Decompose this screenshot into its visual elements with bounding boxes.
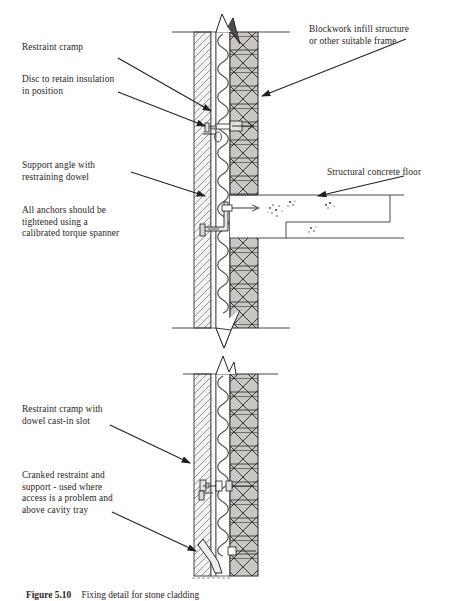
label-restraint-cramp-dowel-slot: Restraint cramp with dowel cast-in slot xyxy=(22,404,103,427)
diagram-top-section xyxy=(118,14,406,348)
label-cranked-restraint-support: Cranked restraint and support - used whe… xyxy=(22,470,113,516)
insulation-layer xyxy=(216,32,230,328)
leader-lines-bottom xyxy=(110,425,196,551)
label-disc-retain-insulation: Disc to retain insulation in position xyxy=(22,74,114,97)
label-blockwork-infill: Blockwork infill structure or other suit… xyxy=(309,24,409,47)
label-all-anchors-torque: All anchors should be tightened using a … xyxy=(22,205,119,240)
cavity-layer xyxy=(211,32,216,328)
insulation-layer-lower xyxy=(216,374,230,576)
figure-caption-label: Figure 5.10 xyxy=(26,590,71,600)
diagram-bottom-section xyxy=(110,356,278,578)
label-structural-concrete-floor: Structural concrete floor xyxy=(327,167,421,179)
blockwork-layer xyxy=(230,32,258,328)
figure-root: Restraint cramp Disc to retain insulatio… xyxy=(0,0,463,601)
blockwork-layer-lower xyxy=(230,374,258,576)
figure-caption: Figure 5.10 Fixing detail for stone clad… xyxy=(26,590,199,601)
label-restraint-cramp: Restraint cramp xyxy=(22,42,83,54)
structural-concrete-floor-slab xyxy=(230,195,404,238)
stone-cladding-layer xyxy=(194,32,211,328)
cavity-layer-lower xyxy=(211,374,216,576)
label-support-angle: Support angle with restraining dowel xyxy=(22,160,95,183)
section-break-line-lower xyxy=(216,356,236,374)
figure-caption-text: Fixing detail for stone cladding xyxy=(81,590,199,600)
